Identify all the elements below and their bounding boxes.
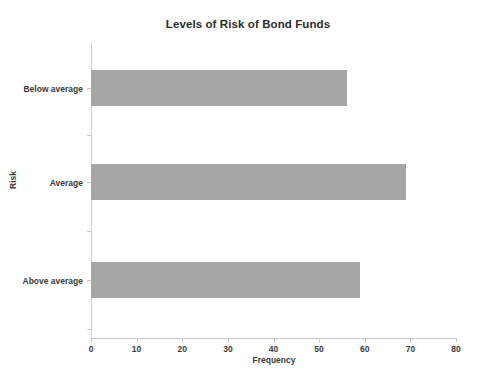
x-tick-mark [365, 338, 366, 342]
bar-above-average[interactable] [91, 262, 360, 298]
x-tick-mark [228, 338, 229, 342]
y-tick-mark [87, 88, 91, 89]
bar-row [91, 164, 456, 200]
x-tick-label: 20 [162, 344, 202, 354]
bar-average[interactable] [91, 164, 406, 200]
x-tick-label: 30 [208, 344, 248, 354]
y-tick-mark [87, 135, 91, 136]
y-tick-mark [87, 329, 91, 330]
x-tick-label: 60 [345, 344, 385, 354]
x-tick-mark [182, 338, 183, 342]
x-tick-mark [91, 338, 92, 342]
x-tick-label: 0 [71, 344, 111, 354]
bar-below-average[interactable] [91, 70, 347, 106]
x-tick-label: 50 [299, 344, 339, 354]
x-tick-mark [137, 338, 138, 342]
bar-row [91, 262, 456, 298]
y-tick-mark [87, 231, 91, 232]
x-tick-mark [274, 338, 275, 342]
y-axis-label-above-average: Above average [23, 276, 83, 286]
x-tick-label: 70 [390, 344, 430, 354]
x-tick-label: 10 [117, 344, 157, 354]
y-axis-label-average: Average [50, 178, 83, 188]
x-tick-mark [456, 338, 457, 342]
chart-title: Levels of Risk of Bond Funds [0, 18, 496, 30]
x-tick-mark [410, 338, 411, 342]
y-axis-title: Risk [8, 150, 18, 210]
y-tick-mark [87, 182, 91, 183]
bar-row [91, 70, 456, 106]
x-axis-title: Frequency [91, 355, 457, 365]
bar-chart: Levels of Risk of Bond Funds Below avera… [0, 0, 496, 368]
x-tick-label: 80 [436, 344, 476, 354]
x-tick-mark [319, 338, 320, 342]
y-axis-label-below-average: Below average [23, 84, 83, 94]
x-tick-label: 40 [254, 344, 294, 354]
y-tick-mark [87, 280, 91, 281]
